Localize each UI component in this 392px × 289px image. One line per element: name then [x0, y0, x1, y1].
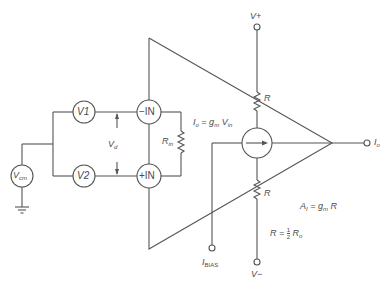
ibias-terminal — [209, 245, 215, 251]
ota-circuit-diagram — [0, 0, 392, 289]
lower-r-resistor — [254, 180, 260, 199]
ground-icon — [15, 207, 29, 213]
gain-equation: AI = gm R — [300, 202, 337, 212]
vplus-label: V+ — [250, 12, 261, 21]
io-equation: Io = gm Vin — [193, 118, 232, 128]
rin-resistor — [178, 131, 184, 153]
neg-input-label: −IN — [139, 107, 155, 117]
io-output-label: Io — [374, 138, 380, 148]
current-direction-arrow-icon — [246, 141, 268, 146]
v1-label: V1 — [77, 107, 89, 117]
r-equation: R = 12 Ro — [270, 227, 302, 240]
pos-input-label: +IN — [139, 171, 155, 181]
vcm-label: Vcm — [13, 171, 27, 181]
v2-label: V2 — [77, 171, 89, 181]
vplus-terminal — [254, 24, 260, 30]
rin-label: Rin — [162, 137, 173, 147]
vminus-label: V− — [251, 270, 262, 279]
ibias-label: IBIAS — [202, 258, 218, 268]
lower-r-label: R — [264, 189, 271, 198]
io-output-terminal — [364, 140, 370, 146]
vminus-terminal — [254, 259, 260, 265]
upper-r-label: R — [264, 94, 271, 103]
vd-label: Vd — [108, 140, 117, 150]
